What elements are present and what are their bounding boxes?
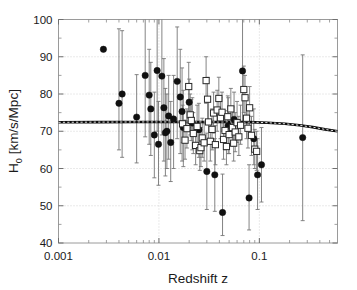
- data-point-filled-circle: [148, 106, 154, 112]
- data-point-open-square: [186, 83, 192, 89]
- data-point-filled-circle: [186, 99, 192, 105]
- data-point-filled-circle: [155, 141, 161, 147]
- data-point-filled-circle: [164, 128, 170, 134]
- data-point-filled-circle: [299, 134, 305, 140]
- x-tick-label: 0.1: [251, 250, 267, 262]
- y-axis-title-units: [km/s/Mpc]: [6, 89, 21, 158]
- data-point-filled-circle: [254, 172, 260, 178]
- data-point-filled-circle: [177, 94, 183, 100]
- data-point-filled-circle: [151, 132, 157, 138]
- data-point-open-square: [226, 132, 232, 138]
- data-point-open-square: [237, 122, 243, 128]
- data-point-filled-circle: [212, 172, 218, 178]
- data-point-open-square: [236, 134, 242, 140]
- y-tick-label: 100: [33, 14, 52, 26]
- data-point-filled-circle: [133, 114, 139, 120]
- y-tick-label: 70: [40, 125, 53, 137]
- data-point-filled-circle: [179, 108, 185, 114]
- data-point-filled-circle: [170, 116, 176, 122]
- hubble-constant-redshift-chart: 405060708090100 0.0010.010.1 Redshift z …: [0, 0, 357, 290]
- data-point-open-square: [216, 95, 222, 101]
- data-point-open-square: [243, 115, 249, 121]
- data-point-filled-circle: [168, 139, 174, 145]
- data-point-open-square: [254, 148, 260, 154]
- data-point-open-square: [228, 106, 234, 112]
- y-tick-label: 80: [40, 88, 53, 100]
- data-point-open-square: [247, 105, 253, 111]
- data-point-open-square: [231, 140, 237, 146]
- chart-canvas: 405060708090100 0.0010.010.1 Redshift z …: [0, 0, 357, 290]
- data-point-open-square: [225, 114, 231, 120]
- data-point-filled-circle: [258, 162, 264, 168]
- data-point-open-square: [245, 125, 251, 131]
- data-point-filled-circle: [219, 209, 225, 215]
- data-point-filled-circle: [161, 105, 167, 111]
- data-point-open-square: [242, 95, 248, 101]
- chart-background: [0, 0, 357, 290]
- y-tick-label: 50: [40, 200, 53, 212]
- data-point-open-square: [190, 130, 196, 136]
- data-point-open-square: [212, 142, 218, 148]
- data-point-filled-circle: [119, 91, 125, 97]
- data-point-open-square: [248, 132, 254, 138]
- data-point-open-square: [205, 119, 211, 125]
- data-point-filled-circle: [146, 92, 152, 98]
- data-point-filled-circle: [154, 67, 160, 73]
- y-axis-title-base: H: [6, 163, 21, 173]
- data-point-filled-circle: [246, 195, 252, 201]
- y-tick-label: 60: [40, 163, 53, 175]
- data-point-filled-circle: [116, 100, 122, 106]
- y-tick-label: 90: [40, 51, 53, 63]
- data-point-filled-circle: [239, 68, 245, 74]
- y-tick-label: 40: [40, 237, 53, 249]
- data-point-filled-circle: [159, 73, 165, 79]
- data-point-open-square: [223, 143, 229, 149]
- data-point-open-square: [184, 126, 190, 132]
- data-point-open-square: [201, 140, 207, 146]
- data-point-filled-circle: [204, 168, 210, 174]
- data-point-filled-circle: [174, 78, 180, 84]
- data-point-open-square: [203, 77, 209, 83]
- data-point-open-square: [194, 123, 200, 129]
- data-point-open-square: [188, 117, 194, 123]
- x-tick-label: 0.001: [44, 250, 73, 262]
- data-point-open-square: [204, 96, 210, 102]
- data-point-open-square: [241, 86, 247, 92]
- x-axis-title: Redshift z: [168, 271, 228, 286]
- data-point-open-square: [182, 137, 188, 143]
- data-point-filled-circle: [142, 72, 148, 78]
- data-point-filled-circle: [100, 46, 106, 52]
- data-point-open-square: [209, 126, 215, 132]
- x-tick-label: 0.01: [148, 250, 170, 262]
